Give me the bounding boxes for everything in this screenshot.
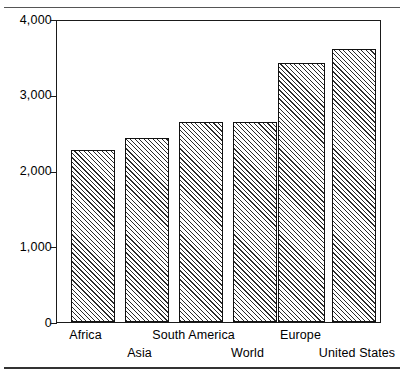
- y-tick-label-3000: 3,000: [20, 89, 52, 101]
- bottom-divider-rule: [4, 367, 400, 369]
- y-tick-major-0: [50, 323, 57, 324]
- plot-area: [56, 20, 381, 323]
- bar-asia: [125, 138, 169, 322]
- x-label-united-states: United States: [311, 347, 403, 360]
- x-label-asia: Asia: [96, 347, 183, 360]
- top-divider-rule: [4, 7, 400, 8]
- bar-united-states: [332, 49, 376, 322]
- bar-world: [233, 122, 277, 322]
- chart-figure: 4,000 3,000 2,000 1,000 0 Africa Asia So…: [0, 0, 404, 373]
- y-tick-label-1000: 1,000: [20, 241, 52, 253]
- bar-africa: [71, 150, 115, 322]
- x-label-europe: Europe: [257, 329, 344, 342]
- x-label-africa: Africa: [42, 329, 129, 342]
- x-label-south-america: South America: [150, 329, 237, 342]
- y-tick-label-4000: 4,000: [20, 14, 52, 26]
- bar-south-america: [179, 122, 223, 322]
- y-tick-label-2000: 2,000: [20, 165, 52, 177]
- x-label-world: World: [204, 347, 291, 360]
- bar-europe: [278, 63, 325, 322]
